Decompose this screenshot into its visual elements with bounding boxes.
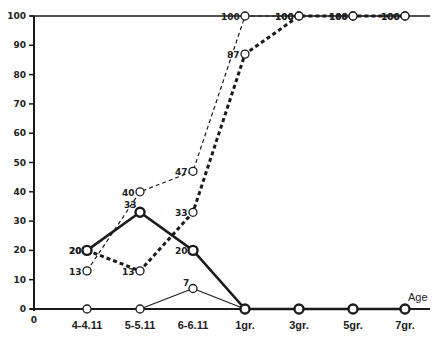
data-point-label: 33 [124, 200, 137, 210]
data-point-label: 13 [69, 267, 82, 277]
data-point-marker [136, 188, 144, 196]
data-point-label: 100 [221, 12, 240, 22]
data-point-label: 33 [175, 208, 188, 218]
origin-label: 0 [31, 315, 37, 325]
axes: 010203040506070809010004-4.115-5.116-6.1… [7, 11, 430, 331]
data-point-marker [189, 167, 197, 175]
data-point-marker [241, 12, 249, 20]
data-point-marker [189, 208, 197, 216]
data-point-marker [349, 12, 357, 20]
data-point-marker [83, 246, 92, 255]
y-tick-label: 60 [13, 128, 26, 138]
data-point-marker [136, 208, 145, 217]
data-point-label: 100 [275, 12, 294, 22]
x-category-label: 5gr. [343, 319, 363, 331]
data-point-label: 100 [329, 12, 348, 22]
data-point-label: 13 [122, 267, 135, 277]
data-point-marker [189, 284, 197, 292]
data-point-marker [189, 246, 198, 255]
data-point-marker [241, 50, 249, 58]
data-point-label: 40 [122, 188, 135, 198]
data-point-marker [83, 305, 91, 313]
y-tick-label: 50 [13, 158, 26, 168]
x-axis-title: Age [408, 291, 428, 303]
data-point-label: 47 [175, 167, 188, 177]
data-point-marker [295, 305, 303, 313]
y-tick-label: 90 [13, 40, 26, 50]
data-point-label: 87 [227, 50, 240, 60]
data-point-label: 7 [183, 278, 189, 288]
data-point-marker [401, 12, 409, 20]
data-point-marker [295, 12, 303, 20]
data-point-marker [136, 267, 144, 275]
x-category-label: 5-5.11 [125, 319, 156, 331]
data-point-marker [241, 305, 249, 313]
x-category-label: 1gr. [235, 319, 255, 331]
data-point-marker [349, 305, 357, 313]
point-labels: 1340471001001001002013338710010010020332… [69, 12, 400, 288]
x-category-label: 6-6.11 [178, 319, 209, 331]
y-tick-label: 0 [20, 304, 26, 314]
y-tick-label: 30 [13, 216, 26, 226]
data-point-marker [401, 305, 409, 313]
line-chart: 010203040506070809010004-4.115-5.116-6.1… [0, 0, 436, 340]
data-point-marker [83, 267, 91, 275]
y-tick-label: 70 [13, 99, 26, 109]
data-point-label: 20 [69, 246, 82, 256]
x-category-label: 7gr. [395, 319, 415, 331]
y-tick-label: 20 [13, 245, 26, 255]
data-point-marker [136, 305, 144, 313]
series-thick-solid-line [87, 212, 405, 309]
y-tick-label: 100 [7, 11, 26, 21]
series-lines [87, 16, 405, 309]
x-category-label: 4-4.11 [72, 319, 103, 331]
data-point-label: 20 [175, 246, 188, 256]
x-category-label: 3gr. [289, 319, 309, 331]
y-tick-label: 80 [13, 70, 26, 80]
data-point-label: 100 [381, 12, 400, 22]
y-tick-label: 40 [13, 187, 26, 197]
y-tick-label: 10 [13, 275, 26, 285]
